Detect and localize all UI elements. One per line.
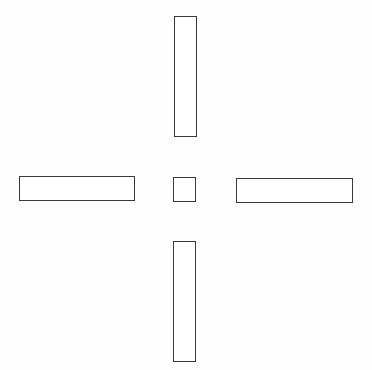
center-square [173,177,196,202]
bottom-rectangle [173,241,196,362]
left-rectangle [19,176,135,201]
top-rectangle [174,16,197,137]
diagram-canvas [0,0,372,370]
right-rectangle [236,178,353,203]
